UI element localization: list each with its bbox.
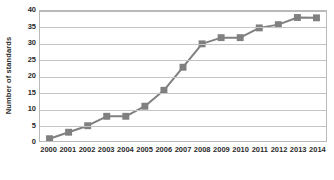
x-tick-label: 2010: [232, 146, 249, 154]
x-tick-label: 2002: [79, 146, 96, 154]
x-tick-label: 2011: [252, 146, 268, 154]
data-point-marker: [103, 113, 110, 120]
x-tick-label: 2005: [136, 146, 153, 154]
y-tick-label: 40: [14, 6, 36, 14]
x-tick-label: 2012: [271, 146, 288, 154]
y-tick-label: 0: [14, 138, 36, 146]
data-point-marker: [65, 129, 72, 136]
y-axis-tick-labels: 0510152025303540: [14, 10, 36, 142]
y-tick-label: 35: [14, 23, 36, 31]
x-tick-label: 2001: [59, 146, 76, 154]
x-tick-label: 2004: [117, 146, 134, 154]
data-point-marker: [313, 14, 320, 21]
y-tick-label: 15: [14, 89, 36, 97]
gridline: [40, 126, 326, 127]
gridline: [40, 93, 326, 94]
y-axis-title-text: Number of standards: [5, 36, 14, 113]
x-axis-tick-labels: 2000200120022003200420052006200720082009…: [39, 146, 327, 162]
x-tick-label: 2008: [194, 146, 211, 154]
x-tick-label: 2003: [98, 146, 115, 154]
gridline: [40, 60, 326, 61]
y-tick-label: 20: [14, 72, 36, 80]
x-tick-label: 2013: [290, 146, 307, 154]
gridline: [40, 110, 326, 111]
data-point-marker: [122, 113, 129, 120]
data-point-marker: [218, 34, 225, 41]
data-point-marker: [294, 14, 301, 21]
gridline: [40, 27, 326, 28]
gridline: [40, 11, 326, 12]
data-point-marker: [237, 34, 244, 41]
x-tick-label: 2006: [155, 146, 172, 154]
x-tick-label: 2009: [213, 146, 230, 154]
gridline: [40, 77, 326, 78]
x-tick-label: 2007: [175, 146, 192, 154]
x-tick-label: 2014: [309, 146, 326, 154]
gridline: [40, 44, 326, 45]
plot-area: [39, 10, 327, 142]
y-tick-label: 5: [14, 122, 36, 130]
line-chart: Number of standards 0510152025303540 200…: [0, 0, 334, 180]
data-point-marker: [180, 64, 187, 71]
y-tick-label: 30: [14, 39, 36, 47]
series-polyline: [50, 18, 317, 139]
y-tick-label: 25: [14, 56, 36, 64]
x-tick-label: 2000: [40, 146, 57, 154]
y-tick-label: 10: [14, 105, 36, 113]
data-point-marker: [46, 135, 53, 141]
